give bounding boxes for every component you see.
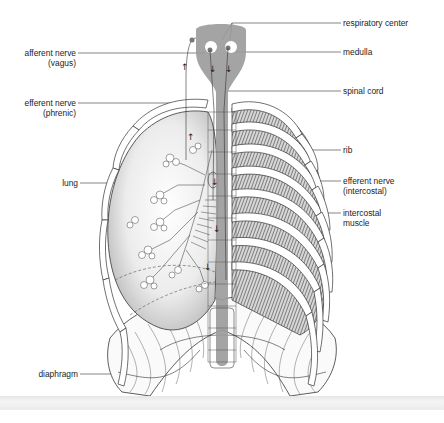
- label-efferent-nerve-phrenic: efferent nerve (phrenic): [24, 98, 76, 118]
- svg-text:↓: ↓: [211, 177, 219, 187]
- label-spinal-cord: spinal cord: [343, 86, 384, 96]
- label-line1: rib: [343, 145, 352, 155]
- label-line1: afferent nerve: [24, 48, 76, 58]
- label-line1: lung: [62, 178, 78, 188]
- svg-text:↓: ↓: [204, 262, 212, 272]
- svg-text:↓: ↓: [209, 64, 217, 74]
- label-line1: medulla: [343, 47, 372, 57]
- label-lung: lung: [62, 178, 78, 188]
- svg-text:↑: ↑: [181, 62, 189, 72]
- label-respiratory-center: respiratory center: [343, 18, 408, 28]
- label-line1: intercostal: [343, 208, 381, 218]
- label-line1: efferent nerve: [24, 98, 76, 108]
- label-line1: respiratory center: [343, 18, 408, 28]
- label-rib: rib: [343, 145, 352, 155]
- label-line2: muscle: [343, 218, 381, 228]
- label-medulla: medulla: [343, 47, 372, 57]
- svg-text:↓: ↓: [213, 224, 221, 234]
- label-efferent-nerve-intercostal: efferent nerve (intercostal): [343, 176, 395, 196]
- label-line2: (vagus): [24, 58, 76, 68]
- respiratory-diagram: ↑ ↓ ↓ ↑ ↓ ↓ ↓ afferent nerve (vagus) eff…: [0, 0, 444, 423]
- label-line1: efferent nerve: [343, 176, 395, 186]
- label-diaphragm: diaphragm: [38, 369, 78, 379]
- label-afferent-nerve-vagus: afferent nerve (vagus): [24, 48, 76, 68]
- label-intercostal-muscle: intercostal muscle: [343, 208, 381, 228]
- svg-text:↑: ↑: [187, 132, 195, 142]
- label-line1: diaphragm: [38, 369, 78, 379]
- label-line2: (phrenic): [24, 108, 76, 118]
- bottom-band: [0, 396, 444, 410]
- label-line2: (intercostal): [343, 186, 395, 196]
- label-line1: spinal cord: [343, 86, 384, 96]
- svg-text:↓: ↓: [225, 64, 233, 74]
